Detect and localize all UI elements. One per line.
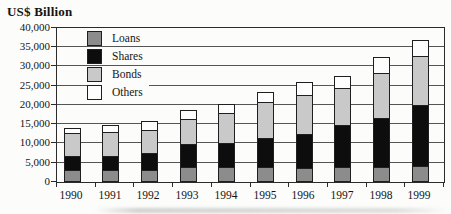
x-tick [327, 183, 328, 187]
x-tick-label-1993: 1993 [165, 189, 209, 201]
legend: LoansSharesBondsOthers [87, 31, 149, 100]
x-axis: 1990199119921993199419951996199719981999 [0, 0, 451, 214]
legend-swatch-loans-icon [87, 31, 102, 46]
x-tick [288, 183, 289, 187]
scan-artifact [95, 208, 449, 213]
legend-label: Bonds [112, 67, 141, 82]
x-tick [56, 183, 57, 187]
legend-item-others: Others [87, 85, 149, 100]
legend-label: Others [112, 85, 143, 100]
legend-swatch-bonds-icon [87, 67, 102, 82]
x-tick-label-1997: 1997 [320, 189, 364, 201]
x-tick [95, 183, 96, 187]
x-tick [133, 183, 134, 187]
x-tick-label-1994: 1994 [204, 189, 248, 201]
x-tick [443, 183, 444, 187]
legend-label: Shares [112, 49, 143, 64]
x-tick [172, 183, 173, 187]
x-tick-label-1992: 1992 [126, 189, 170, 201]
x-tick [211, 183, 212, 187]
legend-item-bonds: Bonds [87, 67, 149, 82]
legend-item-shares: Shares [87, 49, 149, 64]
x-tick-label-1999: 1999 [397, 189, 441, 201]
legend-swatch-shares-icon [87, 49, 102, 64]
x-tick-label-1996: 1996 [281, 189, 325, 201]
x-tick-label-1990: 1990 [49, 189, 93, 201]
x-tick [404, 183, 405, 187]
legend-label: Loans [112, 31, 140, 46]
legend-swatch-others-icon [87, 85, 102, 100]
x-tick [250, 183, 251, 187]
legend-item-loans: Loans [87, 31, 149, 46]
x-tick [366, 183, 367, 187]
figure: US$ Billion 05,00010,00015,00020,00025,0… [0, 0, 451, 214]
